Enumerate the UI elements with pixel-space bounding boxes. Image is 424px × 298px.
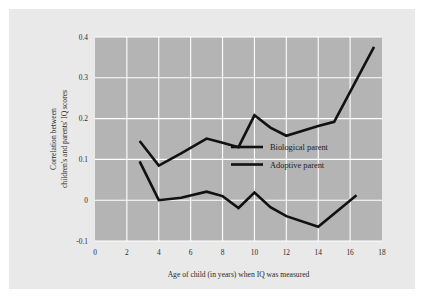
legend-label-1: Adoptive parent [270, 161, 325, 170]
y-tick-label: 0.1 [79, 155, 89, 164]
page-root: 0.40.30.20.10-0.1 024681012141618 Biolog… [0, 0, 424, 298]
x-tick-label: 10 [251, 248, 259, 257]
figure-card: 0.40.30.20.10-0.1 024681012141618 Biolog… [9, 9, 415, 289]
x-tick-label: 12 [283, 248, 291, 257]
y-tick-label: 0.3 [79, 73, 89, 82]
y-tick-labels: 0.40.30.20.10-0.1 [76, 33, 88, 246]
x-tick-label: 2 [125, 248, 129, 257]
x-tick-label: 14 [315, 248, 323, 257]
x-tick-label: 18 [378, 248, 386, 257]
y-tick-label: 0.4 [79, 33, 89, 42]
legend-label-0: Biological parent [270, 143, 329, 152]
x-tick-label: 8 [221, 248, 225, 257]
y-tick-label: 0 [84, 196, 88, 205]
x-tick-label: 16 [346, 248, 354, 257]
y-axis-title-line-1: Correlation between [49, 108, 58, 170]
y-tick-label: 0.2 [79, 114, 89, 123]
y-tick-label: -0.1 [76, 237, 88, 246]
x-tick-label: 0 [93, 248, 97, 257]
line-chart: 0.40.30.20.10-0.1 024681012141618 Biolog… [9, 9, 415, 289]
x-tick-label: 6 [189, 248, 193, 257]
chart-container: 0.40.30.20.10-0.1 024681012141618 Biolog… [9, 9, 415, 289]
x-tick-labels: 024681012141618 [93, 248, 386, 257]
y-axis-title-line-2: children's and parents' IQ scores [60, 90, 69, 188]
x-tick-label: 4 [157, 248, 161, 257]
x-axis-title: Age of child (in years) when IQ was meas… [168, 270, 310, 279]
